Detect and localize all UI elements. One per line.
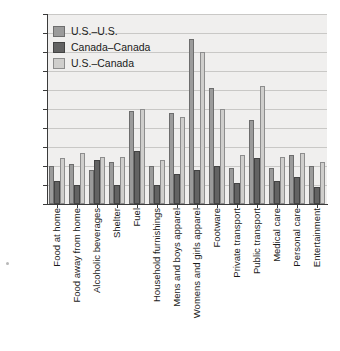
legend-swatch <box>53 26 65 37</box>
x-axis-label-slot: Medical care <box>267 206 287 346</box>
x-axis-tick-label: Public transport <box>252 208 262 274</box>
x-axis-label-slot: Private transport <box>227 206 247 346</box>
legend-swatch <box>53 42 65 53</box>
bar <box>140 109 145 204</box>
bar-group <box>287 14 307 204</box>
bar <box>120 157 125 205</box>
bar-group <box>247 14 267 204</box>
bar <box>160 160 165 204</box>
x-axis-label-slot: Shelter <box>107 206 127 346</box>
bar <box>200 52 205 204</box>
x-axis-tick-label: Entertainment <box>312 208 322 267</box>
x-axis-tick-label: Household furnishings <box>152 208 162 302</box>
x-axis-tick-label: Womens and girls apparel <box>192 208 202 318</box>
bar <box>280 157 285 205</box>
x-axis-label-slot: Mens and boys apparel <box>167 206 187 346</box>
bar-chart: 0.100.090.080.070.060.050.040.030.020.01… <box>0 0 340 351</box>
x-axis-label-slot: Food away from home <box>67 206 87 346</box>
bar-group <box>307 14 327 204</box>
x-axis-tick-label: Food away from home <box>72 208 82 303</box>
bar <box>100 157 105 205</box>
bar-group <box>227 14 247 204</box>
x-axis-tick-label: Medical care <box>272 208 282 262</box>
x-axis-tick-label: Fuel <box>132 208 142 226</box>
legend: U.S.–U.S.Canada–CanadaU.S.–Canada <box>53 26 150 69</box>
y-axis-tick-mark <box>43 204 47 205</box>
legend-label: Canada–Canada <box>71 42 150 53</box>
x-axis-label-slot: Personal care <box>287 206 307 346</box>
artifact-speck <box>6 262 9 265</box>
x-axis-label-slot: Public transport <box>247 206 267 346</box>
bar <box>240 155 245 204</box>
x-axis-label-slot: Footware <box>207 206 227 346</box>
legend-label: U.S.–U.S. <box>71 26 118 37</box>
x-axis-line <box>47 204 328 205</box>
legend-item: U.S.–U.S. <box>53 26 150 37</box>
x-axis-label-slot: Entertainment <box>307 206 327 346</box>
bar <box>80 153 85 204</box>
x-axis-label-slot: Womens and girls apparel <box>187 206 207 346</box>
bar-group <box>207 14 227 204</box>
bar <box>180 117 185 204</box>
x-axis-labels: Food at homeFood away from homeAlcoholic… <box>47 206 327 346</box>
bar-group <box>167 14 187 204</box>
bar <box>320 162 325 204</box>
bar <box>220 109 225 204</box>
legend-item: Canada–Canada <box>53 42 150 53</box>
bar <box>60 158 65 204</box>
legend-item: U.S.–Canada <box>53 58 150 69</box>
x-axis-label-slot: Household furnishings <box>147 206 167 346</box>
x-axis-label-slot: Alcoholic beverages <box>87 206 107 346</box>
legend-label: U.S.–Canada <box>71 58 134 69</box>
x-axis-tick-label: Mens and boys apparel <box>172 208 182 307</box>
bar <box>260 86 265 204</box>
x-axis-tick-label: Food at home <box>52 208 62 267</box>
x-axis-tick-label: Personal care <box>292 208 302 267</box>
x-axis-tick-label: Private transport <box>232 208 242 278</box>
bar-group <box>187 14 207 204</box>
x-axis-tick-label: Footware <box>212 208 222 248</box>
x-axis-tick-label: Alcoholic beverages <box>92 208 102 293</box>
bar <box>300 153 305 204</box>
x-axis-tick-label: Shelter <box>112 208 122 238</box>
legend-swatch <box>53 58 65 69</box>
bar-group <box>267 14 287 204</box>
x-axis-label-slot: Food at home <box>47 206 67 346</box>
x-axis-label-slot: Fuel <box>127 206 147 346</box>
